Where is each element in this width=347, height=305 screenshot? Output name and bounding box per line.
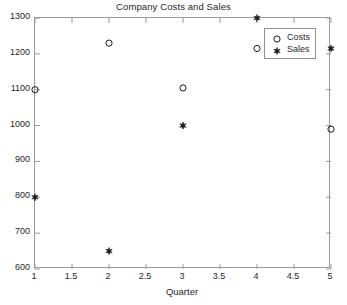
y-tick-label: 700 bbox=[15, 227, 30, 236]
datapoint-sales-4-marker-star bbox=[254, 14, 260, 21]
y-tick-label: 900 bbox=[15, 155, 30, 164]
datapoint-sales-2-marker-star bbox=[106, 247, 112, 254]
x-tick-label: 2 bbox=[105, 272, 110, 281]
legend-sales-marker-star bbox=[274, 47, 280, 54]
x-tick-label: 3 bbox=[179, 272, 184, 281]
legend-item-sales[interactable]: Sales bbox=[269, 43, 310, 55]
y-tick-label: 1300 bbox=[10, 12, 30, 21]
datapoint-costs-5-marker-circle bbox=[328, 126, 334, 132]
y-axis-tick-labels: 6007008009001000110012001300 bbox=[0, 0, 30, 305]
datapoint-costs-3-marker-circle bbox=[180, 85, 186, 91]
legend-marker-costs-icon bbox=[269, 31, 285, 43]
legend-costs-marker-circle bbox=[274, 36, 280, 42]
chart-title: Company Costs and Sales bbox=[0, 1, 347, 12]
chart-figure: Company Costs and Sales 6007008009001000… bbox=[0, 0, 347, 305]
y-tick-label: 600 bbox=[15, 263, 30, 272]
x-tick-label: 2.5 bbox=[139, 272, 152, 281]
x-tick-label: 3.5 bbox=[213, 272, 226, 281]
chart-legend: CostsSales bbox=[264, 28, 316, 59]
datapoint-sales-5-marker-star bbox=[328, 45, 334, 52]
x-tick-label: 4 bbox=[253, 272, 258, 281]
legend-marker-sales-icon bbox=[269, 43, 285, 55]
y-tick-label: 1200 bbox=[10, 48, 30, 57]
x-tick-label: 1.5 bbox=[65, 272, 78, 281]
x-tick-label: 4.5 bbox=[287, 272, 300, 281]
y-tick-label: 1100 bbox=[11, 84, 30, 93]
x-axis-label: Quarter bbox=[34, 286, 330, 297]
x-axis-tick-labels: 11.522.533.544.55 bbox=[34, 272, 330, 284]
legend-label: Sales bbox=[285, 43, 310, 55]
datapoint-costs-2-marker-circle bbox=[106, 40, 112, 46]
x-tick-label: 5 bbox=[327, 272, 332, 281]
legend-label: Costs bbox=[285, 31, 310, 43]
x-tick-label: 1 bbox=[31, 272, 36, 281]
y-tick-label: 1000 bbox=[10, 120, 30, 129]
y-tick-label: 800 bbox=[15, 191, 30, 200]
legend-item-costs[interactable]: Costs bbox=[269, 31, 310, 43]
datapoint-costs-4-marker-circle bbox=[254, 45, 260, 51]
datapoint-sales-3-marker-star bbox=[180, 122, 186, 129]
